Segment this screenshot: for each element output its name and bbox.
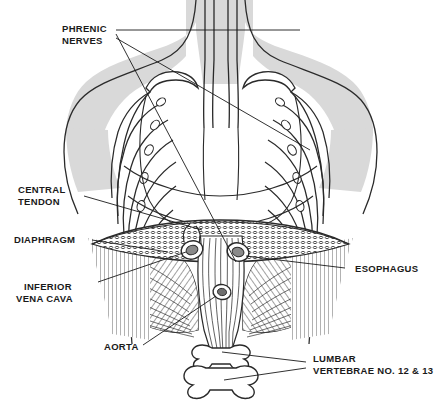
label-phrenic-nerves-line2: NERVES (62, 35, 103, 46)
label-central-tendon-line2: TENDON (18, 196, 60, 207)
label-lumbar-line1: LUMBAR (313, 353, 356, 364)
label-aorta: AORTA (104, 341, 139, 352)
label-aorta-line1: AORTA (104, 341, 139, 352)
label-inferior-vena-cava: INFERIOR VENA CAVA (16, 281, 73, 304)
label-ivc-line1: INFERIOR (24, 281, 72, 292)
label-diaphragm: DIAPHRAGM (14, 234, 75, 245)
diaphragm-anatomy-diagram: PHRENIC NERVES CENTRAL TENDON DIAPHRAGM … (0, 0, 441, 410)
label-phrenic-nerves: PHRENIC NERVES (62, 23, 107, 46)
label-lumbar-line2: VERTEBRAE NO. 12 & 13 (313, 365, 433, 376)
label-central-tendon: CENTRAL TENDON (18, 184, 66, 207)
label-central-tendon-line1: CENTRAL (18, 184, 66, 195)
label-esophagus-line1: ESOPHAGUS (355, 263, 418, 274)
label-esophagus: ESOPHAGUS (355, 263, 418, 274)
label-ivc-line2: VENA CAVA (16, 293, 73, 304)
lumbar-vertebrae (184, 345, 258, 398)
label-diaphragm-line1: DIAPHRAGM (14, 234, 75, 245)
label-phrenic-nerves-line1: PHRENIC (62, 23, 107, 34)
